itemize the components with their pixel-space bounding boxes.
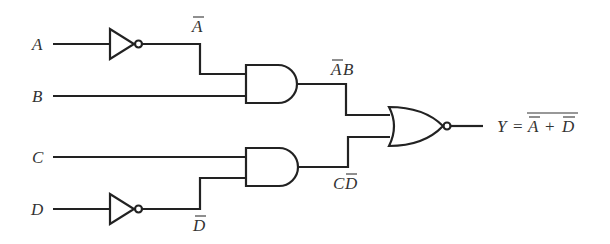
- and-gate-1-icon: [246, 65, 297, 103]
- wire-d-bar: [142, 178, 246, 209]
- input-label-a: A: [31, 35, 43, 54]
- label-d-bar: D: [192, 216, 206, 235]
- input-label-d: D: [30, 200, 44, 219]
- label-cd-c: C: [333, 174, 345, 193]
- inversion-bubble-icon: [135, 41, 142, 48]
- label-cd-d: D: [344, 174, 358, 193]
- output-term-d: D: [561, 117, 575, 136]
- inversion-bubble-icon: [135, 206, 142, 213]
- output-label-y: Y: [497, 117, 508, 136]
- input-label-b: B: [32, 87, 43, 106]
- wire-ab: [297, 84, 390, 115]
- input-label-c: C: [32, 148, 44, 167]
- wire-cd: [298, 137, 390, 167]
- nor-gate-icon: [389, 107, 443, 146]
- output-term-a: A: [527, 117, 539, 136]
- not-gate-icon: [110, 29, 134, 59]
- label-ab-b: B: [343, 60, 354, 79]
- inverter-d: [53, 194, 142, 224]
- inversion-bubble-icon: [444, 123, 451, 130]
- inverter-a: [53, 29, 142, 59]
- and-gate-2-icon: [246, 148, 298, 186]
- wire-a-bar: [142, 44, 246, 74]
- plus-sign: +: [545, 117, 555, 136]
- logic-circuit-diagram: A B C D A A B D C D Y = A + D: [0, 0, 610, 244]
- label-ab-a: A: [330, 60, 342, 79]
- equals-sign: =: [513, 117, 523, 136]
- not-gate-icon: [110, 194, 134, 224]
- label-a-bar: A: [191, 17, 203, 36]
